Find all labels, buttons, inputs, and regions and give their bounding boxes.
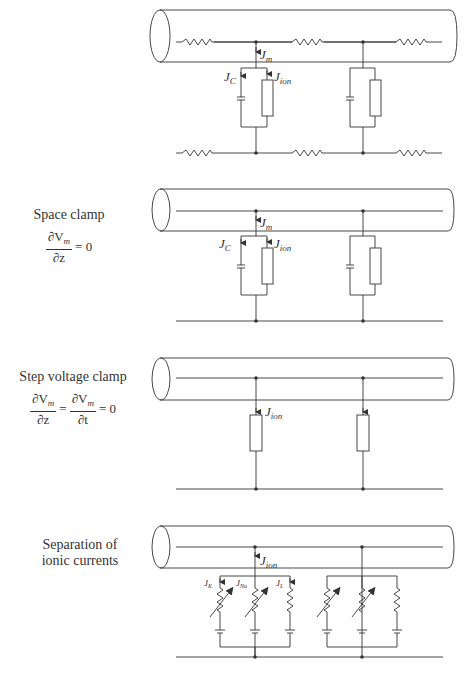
- potassium-branch: [210, 576, 231, 647]
- axon-cylinder: [160, 358, 454, 400]
- jk-label: JK: [204, 578, 213, 589]
- sodium-branch-2: [352, 576, 373, 633]
- potassium-branch-2: [317, 576, 338, 647]
- axon-cylinder: [160, 10, 457, 62]
- jion-label: Jion: [274, 236, 292, 253]
- axon-cylinder: [160, 189, 454, 231]
- jc-label: JC: [224, 69, 237, 86]
- panel-separation-ionic-currents: [152, 526, 454, 659]
- jion-label: Jion: [260, 553, 278, 570]
- jl-label: JL: [276, 578, 284, 589]
- jm-label: Jm: [260, 47, 273, 64]
- axon-end-cap: [152, 526, 170, 568]
- jion-label: Jion: [265, 404, 283, 421]
- panel-step-voltage-clamp: [152, 358, 454, 491]
- sodium-branch: [245, 576, 266, 657]
- panel-space-clamp: [152, 189, 454, 323]
- axon-end-cap: [150, 10, 170, 62]
- circuit-diagram: Jm JC Jion Jm JC Jion Jion Jion JK JNa J…: [0, 0, 473, 678]
- jm-label: Jm: [260, 215, 273, 232]
- leak-branch: [285, 576, 295, 647]
- axial-resistor-bottom: [176, 150, 442, 156]
- jna-label: JNa: [236, 578, 247, 589]
- jc-label: JC: [219, 236, 232, 253]
- panel-cable-model: [150, 10, 457, 156]
- axon-end-cap: [152, 358, 170, 400]
- leak-branch-2: [392, 576, 402, 647]
- axon-end-cap: [152, 189, 170, 231]
- jion-label: Jion: [274, 69, 292, 86]
